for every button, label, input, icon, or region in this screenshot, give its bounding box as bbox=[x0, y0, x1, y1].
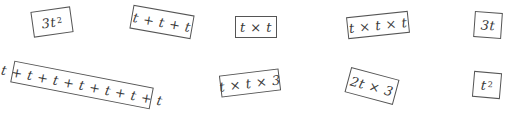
expression-card-t-plus-t-plus-t[interactable]: t + t + t bbox=[129, 5, 194, 39]
expression-card-3t-squared[interactable]: 3t2 bbox=[30, 6, 73, 37]
card-text: t × t × t bbox=[348, 14, 408, 35]
expression-card-seven-t-sum[interactable]: t + t + t + t + t + t + t bbox=[10, 61, 154, 110]
card-text: t × t bbox=[240, 20, 272, 35]
expression-card-t-times-t-times-t[interactable]: t × t × t bbox=[346, 11, 410, 39]
expression-card-t-squared[interactable]: t2 bbox=[472, 71, 502, 99]
expression-card-t-times-t-times-3[interactable]: t × t × 3 bbox=[219, 68, 281, 97]
card-text: 3t bbox=[41, 14, 57, 31]
expression-card-2t-times-3[interactable]: 2t × 3 bbox=[344, 67, 399, 105]
expression-card-t-times-t[interactable]: t × t bbox=[235, 16, 277, 38]
card-text: t bbox=[480, 77, 487, 92]
card-text: t + t + t + t + t + t + t bbox=[0, 62, 164, 108]
card-text: t × t × 3 bbox=[219, 72, 282, 94]
card-text: t + t + t bbox=[132, 10, 192, 35]
card-text: 2t × 3 bbox=[349, 73, 395, 99]
expression-card-3t[interactable]: 3t bbox=[473, 11, 503, 39]
card-text: 3t bbox=[480, 17, 496, 33]
card-exponent: 2 bbox=[57, 21, 63, 22]
